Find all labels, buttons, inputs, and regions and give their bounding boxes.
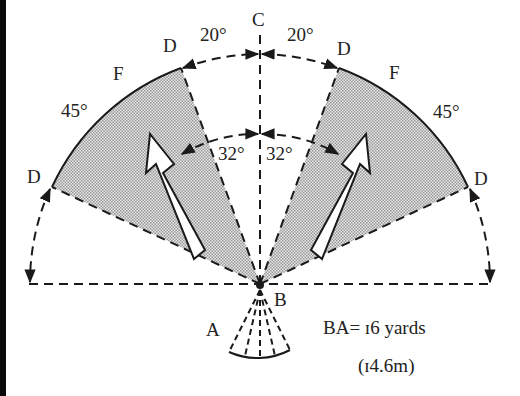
arc-side-left-dashed bbox=[30, 189, 50, 282]
label-D-inner-right: D bbox=[337, 38, 351, 59]
label-D-inner-left: D bbox=[163, 35, 177, 56]
label-F-left: F bbox=[113, 63, 124, 84]
label-C: C bbox=[252, 9, 265, 30]
fan-ray-1 bbox=[229, 290, 260, 352]
fan-ray-2 bbox=[245, 290, 260, 356]
angle-side-left: 45° bbox=[61, 100, 88, 121]
arc-top-right-dashed bbox=[262, 54, 337, 68]
note-metric: (ɪ4.6m) bbox=[358, 355, 414, 377]
fan-ray-4 bbox=[260, 290, 275, 356]
angle-top-right: 20° bbox=[287, 24, 314, 45]
angle-inner-left: 32° bbox=[218, 143, 245, 164]
arc-side-right-dashed bbox=[470, 189, 490, 282]
angle-side-right: 45° bbox=[433, 101, 460, 122]
label-D-outer-left: D bbox=[27, 166, 41, 187]
note-distance: BA= ɪ6 yards bbox=[323, 317, 426, 338]
point-B bbox=[256, 281, 264, 289]
angle-inner-right: 32° bbox=[266, 143, 293, 164]
label-F-right: F bbox=[389, 62, 400, 83]
label-B: B bbox=[274, 289, 287, 310]
label-A: A bbox=[206, 319, 220, 340]
label-D-outer-right: D bbox=[474, 168, 488, 189]
arc-top-left-dashed bbox=[183, 54, 258, 68]
angle-top-left: 20° bbox=[200, 24, 227, 45]
field-diagram: C D D D D F F A B 20° 20° 45° 45° 32° 32… bbox=[0, 0, 520, 396]
